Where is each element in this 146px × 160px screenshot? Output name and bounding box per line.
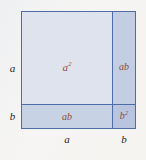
- area-label-ab-right-base: ab: [119, 61, 129, 72]
- area-label-ab-right: ab: [112, 62, 136, 72]
- edge-label-left-a: a: [6, 63, 19, 74]
- edge-label-left-b: b: [6, 111, 19, 122]
- area-label-a-squared-exponent: 2: [68, 60, 72, 67]
- area-label-a-squared: a2: [21, 62, 113, 73]
- area-label-b-squared: b2: [112, 111, 136, 121]
- area-label-ab-bottom: ab: [21, 112, 113, 122]
- area-label-b-squared-exponent: 2: [125, 109, 128, 116]
- region-ab-right: [112, 11, 136, 105]
- algebraic-area-diagram: a2 ab ab b2 a b a b: [0, 0, 146, 160]
- region-a-squared: [21, 11, 113, 105]
- edge-label-bottom-b: b: [112, 134, 136, 145]
- edge-label-bottom-a: a: [21, 134, 113, 145]
- area-label-ab-bottom-base: ab: [62, 111, 72, 122]
